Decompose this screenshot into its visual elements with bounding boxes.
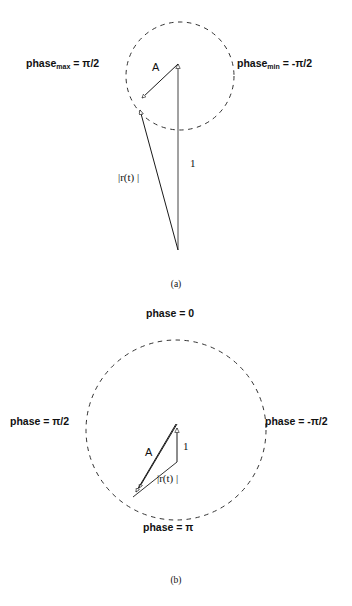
panel-b-graphics bbox=[86, 340, 266, 520]
phase-max-label: phasemax = π/2 bbox=[26, 58, 99, 70]
phase-min-text: phase bbox=[237, 57, 267, 69]
phase-min-label: phasemin = -π/2 bbox=[237, 58, 312, 70]
modulation-vector-a bbox=[142, 64, 178, 98]
phase-min-value: = -π/2 bbox=[280, 57, 312, 69]
resultant-vector-label-a: |r(t) | bbox=[118, 172, 139, 183]
modulation-vector-label-b: A bbox=[145, 447, 152, 458]
figure-container: phasemax = π/2 phasemin = -π/2 A 1 |r(t)… bbox=[0, 0, 352, 606]
phase-max-value: = π/2 bbox=[70, 57, 99, 69]
resultant-vector-a bbox=[140, 110, 178, 250]
phase-top-label: phase = 0 bbox=[146, 308, 194, 319]
caption-a: (a) bbox=[156, 280, 196, 290]
unity-vector-label-b: 1 bbox=[183, 441, 189, 452]
phase-max-text: phase bbox=[26, 57, 56, 69]
unity-vector-label-a: 1 bbox=[190, 158, 196, 169]
caption-b: (b) bbox=[156, 576, 196, 586]
phasor-circle-a bbox=[126, 22, 234, 130]
phase-right-label: phase = -π/2 bbox=[265, 416, 328, 427]
resultant-vector-label-b: |r(t) | bbox=[157, 473, 178, 484]
phasor-diagram-svg bbox=[0, 0, 352, 606]
phasor-circle-b bbox=[86, 340, 266, 520]
phase-max-subscript: max bbox=[56, 63, 70, 70]
panel-a-graphics bbox=[126, 22, 234, 250]
phase-left-label: phase = π/2 bbox=[10, 416, 69, 427]
phase-min-subscript: min bbox=[267, 63, 279, 70]
modulation-vector-label-a: A bbox=[152, 62, 159, 73]
phase-bottom-label: phase = π bbox=[143, 522, 193, 533]
